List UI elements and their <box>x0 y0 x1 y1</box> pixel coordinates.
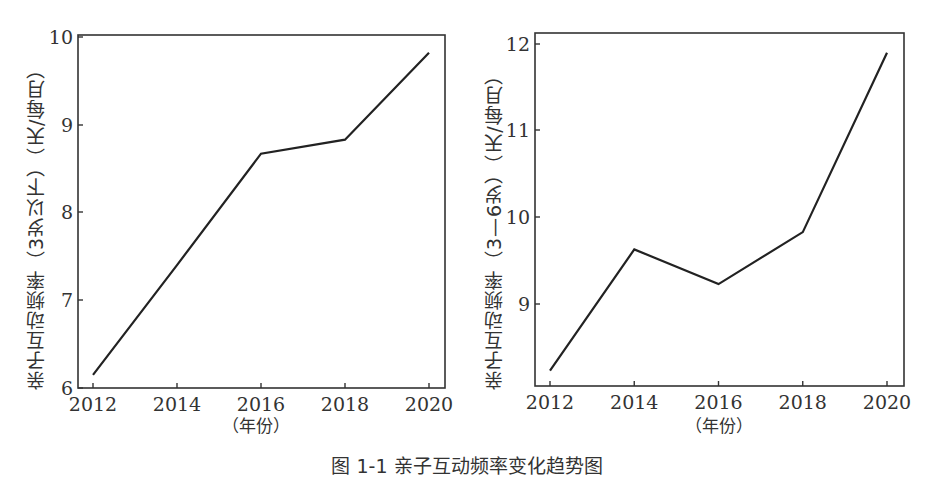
chart-right-panel: 亲子互动频率（3—6岁）（天/每月） 910111220122014201620… <box>467 0 934 440</box>
data-line <box>93 53 429 375</box>
y-tick-label: 7 <box>61 289 73 311</box>
x-tick-label: 2018 <box>321 393 369 415</box>
chart-left-plot: 67891020122014201620182020 <box>0 0 467 420</box>
figure-caption: 图 1-1 亲子互动频率变化趋势图 <box>0 451 934 478</box>
plot-frame <box>535 33 904 386</box>
data-line <box>550 53 887 371</box>
x-tick-label: 2020 <box>405 393 453 415</box>
y-tick-label: 9 <box>61 114 73 136</box>
y-tick-label: 11 <box>506 119 530 141</box>
y-tick-label: 10 <box>49 26 73 48</box>
x-tick-label: 2012 <box>69 393 117 415</box>
chart-right-plot: 910111220122014201620182020 <box>467 0 934 420</box>
y-tick-label: 10 <box>506 206 530 228</box>
x-tick-label: 2014 <box>153 393 201 415</box>
x-tick-label: 2014 <box>610 391 658 413</box>
chart-left-xlabel: （年份） <box>222 412 290 437</box>
x-tick-label: 2018 <box>779 391 827 413</box>
chart-right-xlabel: （年份） <box>685 412 753 437</box>
plot-frame <box>78 35 445 388</box>
chart-left-panel: 亲子互动频率（3岁以下）（天/每月） 678910201220142016201… <box>0 0 467 440</box>
x-tick-label: 2012 <box>526 391 574 413</box>
y-tick-label: 12 <box>506 33 530 55</box>
x-tick-label: 2016 <box>694 391 742 413</box>
x-tick-label: 2020 <box>863 391 911 413</box>
y-tick-label: 8 <box>61 201 73 223</box>
y-tick-label: 9 <box>518 293 530 315</box>
